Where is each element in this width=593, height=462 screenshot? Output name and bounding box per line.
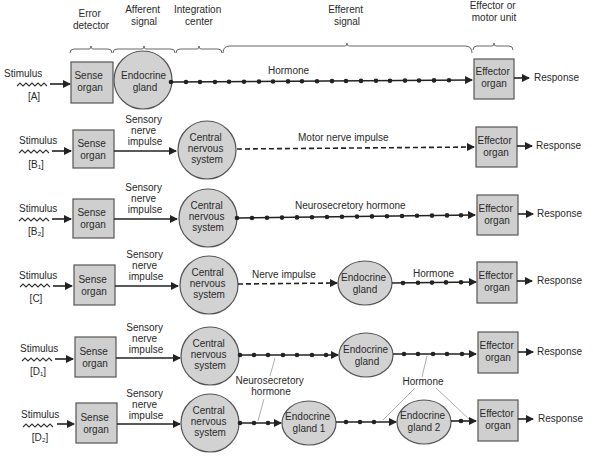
- sense-organ-label: Sense organ: [80, 412, 111, 435]
- cns-label: Central nervous system: [189, 200, 227, 233]
- endocrine-gland: [339, 333, 393, 377]
- header-error-detector: Error detector: [73, 8, 110, 31]
- row-label: [A]: [28, 91, 40, 102]
- sensory-nerve-impulse-label: Sensory nerve impulse: [125, 182, 164, 215]
- nerve-impulse-path: [238, 283, 337, 284]
- stimulus-wave-icon: [20, 284, 50, 287]
- brace-integration-center: [176, 46, 222, 53]
- cns-label: Central nervous system: [190, 267, 228, 300]
- row-label: [C]: [30, 293, 43, 304]
- stimulus-label: Stimulus: [19, 203, 57, 214]
- header-effector-motor-unit: Effector or motor unit: [470, 0, 519, 23]
- sense-organ-label: Sense organ: [79, 346, 110, 369]
- stimulus-wave-icon: [19, 150, 49, 153]
- stimulus-label: Stimulus: [19, 270, 57, 281]
- brace-efferent-signal: [223, 43, 472, 53]
- brace-error-detector: [70, 46, 112, 53]
- row-d2: Stimulus [D₂] Sense organ Sensory nerve …: [21, 388, 583, 452]
- stimulus-wave-icon: [23, 424, 53, 427]
- cns-label: Central nervous system: [188, 132, 226, 165]
- stimulus-wave-icon: [19, 218, 49, 221]
- sensory-nerve-impulse-label: Sensory nerve impulse: [125, 114, 164, 147]
- sense-organ-label: Sense organ: [77, 138, 108, 161]
- header-categories: Error detector Afferent signal Integrati…: [70, 0, 518, 53]
- feedback-control-diagram: Error detector Afferent signal Integrati…: [0, 0, 593, 462]
- response-label: Response: [534, 72, 579, 83]
- stimulus-label: Stimulus: [4, 68, 42, 79]
- stimulus-label: Stimulus: [19, 135, 57, 146]
- motor-nerve-path: [237, 147, 474, 149]
- row-label: [B₂]: [28, 226, 44, 237]
- header-efferent-signal: Efferent signal: [328, 4, 366, 27]
- leader-line: [258, 399, 264, 421]
- header-integration-center: Integration center: [174, 4, 224, 27]
- response-label: Response: [538, 413, 583, 424]
- leader-line: [422, 356, 427, 377]
- sense-organ-label: Sense organ: [77, 207, 108, 230]
- sense-organ: [74, 265, 115, 305]
- stimulus-label: Stimulus: [20, 343, 58, 354]
- sense-organ: [73, 130, 114, 168]
- brace-effector-motor-unit: [473, 43, 513, 50]
- stimulus-wave-icon: [22, 358, 52, 361]
- row-b2: Stimulus [B₂] Sense organ Sensory nerve …: [19, 182, 582, 247]
- sense-organ: [75, 337, 116, 377]
- nerve-impulse-label: Nerve impulse: [252, 269, 316, 280]
- row-label: [D₂]: [32, 432, 49, 443]
- hormone-label: Hormone: [413, 268, 455, 279]
- response-label: Response: [537, 275, 582, 286]
- row-c: Stimulus [C] Sense organ Sensory nerve i…: [19, 249, 582, 314]
- leader-line: [270, 358, 275, 376]
- endocrine-gland: [338, 261, 392, 305]
- cns-label: Central nervous system: [191, 405, 229, 438]
- row-label: [D₁]: [30, 366, 46, 377]
- neurosecretory-hormone-label: Neurosecretory hormone: [295, 200, 406, 211]
- stimulus-label: Stimulus: [21, 409, 59, 420]
- hormone-label: Hormone: [268, 65, 310, 76]
- response-label: Response: [537, 346, 582, 357]
- sense-organ-label: Sense organ: [74, 70, 105, 93]
- sense-organ: [76, 403, 117, 443]
- row-label: [B₁]: [28, 159, 44, 170]
- hormone-dots: [459, 419, 464, 424]
- sensory-nerve-impulse-label: Sensory nerve impulse: [126, 388, 165, 421]
- hormone-annotation: Hormone: [402, 376, 444, 387]
- response-label: Response: [537, 208, 582, 219]
- response-label: Response: [536, 140, 581, 151]
- cns-label: Central nervous system: [191, 338, 229, 371]
- row-b1: Stimulus [B₁] Sense organ Sensory nerve …: [19, 114, 581, 179]
- sensory-nerve-impulse-label: Sensory nerve impulse: [126, 249, 165, 282]
- header-afferent-signal: Afferent signal: [125, 4, 163, 27]
- sense-organ-label: Sense organ: [78, 274, 109, 297]
- sensory-nerve-impulse-label: Sensory nerve impulse: [126, 322, 165, 355]
- neurosecretory-hormone-annotation: Neurosecretory hormone: [235, 375, 306, 397]
- stimulus-wave-icon: [17, 83, 47, 86]
- row-a: Stimulus [A] Sense organ Endocrine gland…: [4, 51, 579, 109]
- motor-nerve-impulse-label: Motor nerve impulse: [298, 132, 389, 143]
